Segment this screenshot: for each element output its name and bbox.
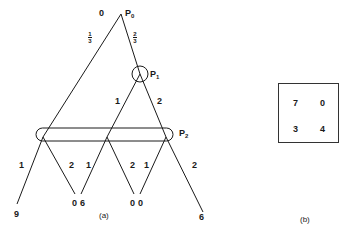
- branch-root-left: [43, 14, 121, 137]
- matrix-cell: 4: [320, 124, 325, 134]
- leaf-payoff: 0: [72, 199, 77, 208]
- payoff-matrix: 7 0 3 4: [278, 83, 339, 143]
- leaf-payoff: 6: [199, 213, 204, 222]
- branch-label: 2: [130, 161, 135, 170]
- matrix-cell: 3: [293, 124, 298, 134]
- root-player-sub: 0: [131, 13, 134, 19]
- branch-root-right: [121, 14, 140, 74]
- p1-sub: 1: [156, 74, 159, 80]
- p1-branch-right-label: 2: [157, 97, 162, 106]
- leaf-payoff: 6: [80, 199, 85, 208]
- root-value: 0: [99, 9, 104, 18]
- matrix-cell: 7: [293, 98, 298, 108]
- p2-label: P2: [179, 129, 188, 139]
- p1-label: P1: [150, 70, 159, 80]
- matrix-cell: 0: [320, 98, 325, 108]
- leaf-payoff: 0: [130, 199, 135, 208]
- branch-label: 1: [19, 161, 24, 170]
- prob-left-den: 3: [88, 38, 91, 44]
- prob-left: 1 3: [88, 31, 92, 44]
- leaf-payoff: 0: [138, 199, 143, 208]
- branch-label: 2: [192, 161, 197, 170]
- p1-branch-left-label: 1: [115, 97, 120, 106]
- caption-b: (b): [300, 216, 310, 224]
- branch-label: 1: [86, 161, 91, 170]
- leaf-payoff: 9: [14, 210, 19, 219]
- branch-label: 1: [144, 161, 149, 170]
- branch-label: 2: [69, 161, 74, 170]
- p2-information-set: [36, 128, 173, 141]
- caption-a: (a): [99, 212, 109, 220]
- prob-right: 2 3: [133, 31, 137, 44]
- root-player-label: P0: [125, 9, 134, 19]
- prob-right-den: 3: [133, 38, 136, 44]
- p2-sub: 2: [185, 133, 188, 139]
